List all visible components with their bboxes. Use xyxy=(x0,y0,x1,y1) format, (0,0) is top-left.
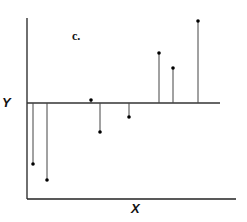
data-point xyxy=(31,162,35,166)
data-point xyxy=(98,130,102,134)
data-point xyxy=(127,115,131,119)
data-point xyxy=(157,51,161,55)
data-point xyxy=(89,98,93,102)
data-point xyxy=(45,178,49,182)
panel-label: c. xyxy=(72,29,80,44)
data-point xyxy=(196,19,200,23)
residual-stems xyxy=(33,21,198,180)
y-axis-label: Y xyxy=(2,95,11,110)
data-points xyxy=(31,19,200,182)
data-point xyxy=(171,66,175,70)
residual-plot xyxy=(0,0,247,222)
x-axis-label: X xyxy=(131,201,140,216)
